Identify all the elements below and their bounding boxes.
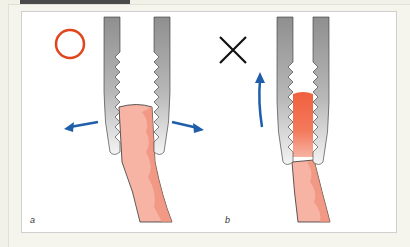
panel-a xyxy=(56,17,204,222)
tissue-compressed-b xyxy=(293,92,313,157)
panel-label-a: a xyxy=(30,215,35,225)
figure-panel: a b xyxy=(21,11,397,233)
incorrect-cross-icon xyxy=(220,37,246,63)
arrow-left-icon xyxy=(70,122,98,127)
arrow-up-icon xyxy=(259,80,262,127)
correct-circle-icon xyxy=(56,30,84,58)
diagram-canvas xyxy=(22,12,396,232)
panel-b xyxy=(220,17,330,222)
instrument-jaw-left-b xyxy=(277,17,293,165)
instrument-jaw-left-a xyxy=(104,17,120,155)
panel-label-b: b xyxy=(225,215,230,225)
instrument-jaw-right-a xyxy=(154,17,170,155)
instrument-jaw-right-b xyxy=(313,17,329,165)
